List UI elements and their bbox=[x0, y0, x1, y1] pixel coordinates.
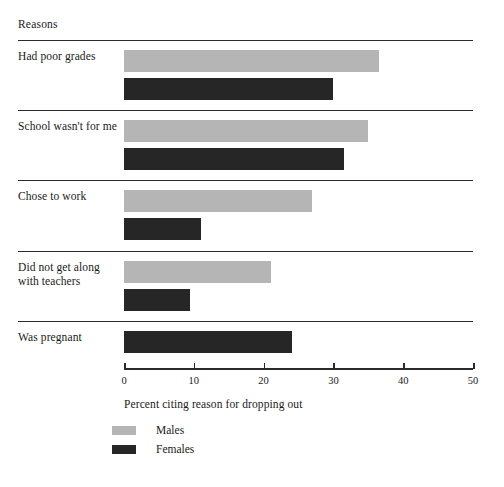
category-label-3: Did not get along with teachers bbox=[18, 261, 122, 288]
legend-swatch-females-icon bbox=[112, 445, 136, 454]
x-axis-tick-10 bbox=[194, 363, 196, 369]
category-column-header: Reasons bbox=[18, 18, 58, 30]
x-axis-tick-20 bbox=[264, 363, 266, 369]
separator-rule-3 bbox=[18, 180, 473, 181]
legend-label-males: Males bbox=[156, 424, 184, 436]
bar-males-1 bbox=[124, 120, 368, 142]
category-label-2: Chose to work bbox=[18, 190, 122, 204]
x-axis-tick-label-10: 10 bbox=[179, 375, 209, 386]
separator-rule-1 bbox=[18, 40, 473, 41]
separator-rule-5 bbox=[18, 321, 473, 322]
x-axis-tick-label-40: 40 bbox=[388, 375, 418, 386]
bar-females-4 bbox=[124, 331, 292, 353]
bar-females-2 bbox=[124, 218, 201, 240]
x-axis-tick-50 bbox=[473, 363, 475, 369]
x-axis-tick-40 bbox=[403, 363, 405, 369]
x-axis-tick-label-50: 50 bbox=[458, 375, 488, 386]
chart-figure: Reasons Had poor grades School wasn't fo… bbox=[0, 0, 504, 487]
legend-swatch-males-icon bbox=[112, 426, 136, 435]
x-axis-tick-0 bbox=[124, 363, 126, 369]
x-axis-line bbox=[124, 368, 473, 370]
bar-males-3 bbox=[124, 261, 271, 283]
separator-rule-2 bbox=[18, 110, 473, 111]
legend-label-females: Females bbox=[156, 443, 194, 455]
category-label-0: Had poor grades bbox=[18, 50, 122, 64]
category-label-4: Was pregnant bbox=[18, 331, 122, 345]
bar-pair-0 bbox=[124, 50, 379, 100]
separator-rule-4 bbox=[18, 251, 473, 252]
x-axis-tick-30 bbox=[333, 363, 335, 369]
bar-males-2 bbox=[124, 190, 312, 212]
x-axis-tick-label-20: 20 bbox=[249, 375, 279, 386]
bar-females-0 bbox=[124, 78, 333, 100]
bar-pair-1 bbox=[124, 120, 368, 170]
bar-pair-2 bbox=[124, 190, 312, 240]
bar-females-1 bbox=[124, 148, 344, 170]
x-axis-title: Percent citing reason for dropping out bbox=[124, 398, 303, 410]
bar-males-0 bbox=[124, 50, 379, 72]
x-axis-tick-label-30: 30 bbox=[318, 375, 348, 386]
legend-entry-females: Females bbox=[112, 443, 194, 455]
legend-entry-males: Males bbox=[112, 424, 184, 436]
x-axis-tick-label-0: 0 bbox=[109, 375, 139, 386]
bar-pair-4 bbox=[124, 331, 292, 353]
category-label-1: School wasn't for me bbox=[18, 120, 122, 134]
bar-females-3 bbox=[124, 289, 190, 311]
bar-pair-3 bbox=[124, 261, 271, 311]
